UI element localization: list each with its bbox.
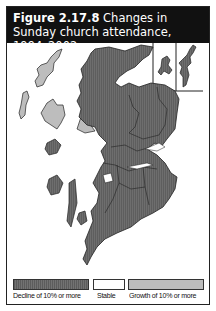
region-mull: [45, 139, 61, 155]
region-islay: [47, 175, 63, 195]
region-western-isles: [35, 49, 62, 87]
legend-swatch-stable: [93, 279, 125, 290]
legend-swatch-decline: [13, 279, 89, 290]
figure-title: Figure 2.17.8 Changes in Sunday church a…: [7, 7, 209, 43]
region-arran: [77, 211, 87, 225]
scotland-map: [7, 43, 209, 278]
region-skye: [41, 99, 65, 129]
inset-northern-isles: [153, 43, 203, 91]
legend-label-stable: Stable: [97, 291, 115, 300]
figure-number: Figure 2.17.8: [13, 11, 99, 25]
legend-swatch-growth: [128, 279, 204, 290]
region-mainland: [77, 45, 179, 265]
region-shetland: [179, 45, 196, 87]
region-orkney: [158, 56, 172, 75]
figure-frame: Figure 2.17.8 Changes in Sunday church a…: [6, 6, 210, 305]
region-kintyre: [67, 179, 77, 227]
region-uist: [19, 91, 29, 119]
region-stable: [103, 173, 113, 183]
legend-label-growth: Growth of 10% or more: [129, 291, 196, 300]
map-legend: Decline of 10% or more Stable Growth of …: [11, 279, 207, 303]
legend-label-decline: Decline of 10% or more: [13, 291, 81, 300]
